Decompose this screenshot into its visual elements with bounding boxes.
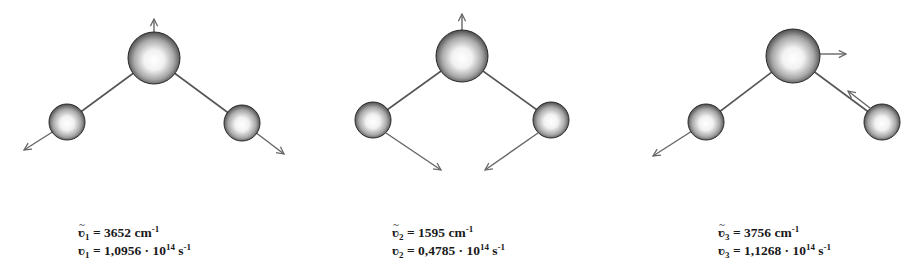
oxygen-atom: [766, 29, 820, 83]
mode-1-label: ~ʋ1 = 3652 cm-1 ʋ1 = 1,0956 · 1014 s-1: [78, 224, 191, 260]
arrow-h-left: [653, 131, 692, 156]
arrow-h-right-down: [485, 133, 538, 170]
wavenumber-line: ~ʋ1 = 3652 cm-1: [78, 224, 191, 242]
hydrogen-atom-left: [49, 104, 85, 140]
hydrogen-atom-left: [355, 102, 391, 138]
hydrogen-atom-left: [688, 104, 724, 140]
frequency-line: ʋ2 = 0,4785 · 1014 s-1: [392, 242, 505, 260]
frequency-line: ʋ3 = 1,1268 · 1014 s-1: [718, 242, 831, 260]
mode-1-molecule: [24, 19, 284, 154]
mode-3-molecule: [653, 29, 900, 156]
arrow-h-left-down: [386, 133, 441, 170]
hydrogen-atom-right: [864, 104, 900, 140]
frequency-line: ʋ1 = 1,0956 · 1014 s-1: [78, 242, 191, 260]
oxygen-atom: [436, 30, 488, 82]
mode-2-label: ~ʋ2 = 1595 cm-1 ʋ2 = 0,4785 · 1014 s-1: [392, 224, 505, 260]
arrow-h-left: [24, 131, 54, 150]
mode-3-label: ~ʋ3 = 3756 cm-1 ʋ3 = 1,1268 · 1014 s-1: [718, 224, 831, 260]
mode-2-molecule: [355, 14, 569, 170]
arrow-h-right: [255, 132, 284, 154]
hydrogen-atom-right: [224, 105, 260, 141]
hydrogen-atom-right: [533, 102, 569, 138]
wavenumber-line: ~ʋ3 = 3756 cm-1: [718, 224, 831, 242]
oxygen-atom: [128, 32, 180, 84]
wavenumber-line: ~ʋ2 = 1595 cm-1: [392, 224, 505, 242]
